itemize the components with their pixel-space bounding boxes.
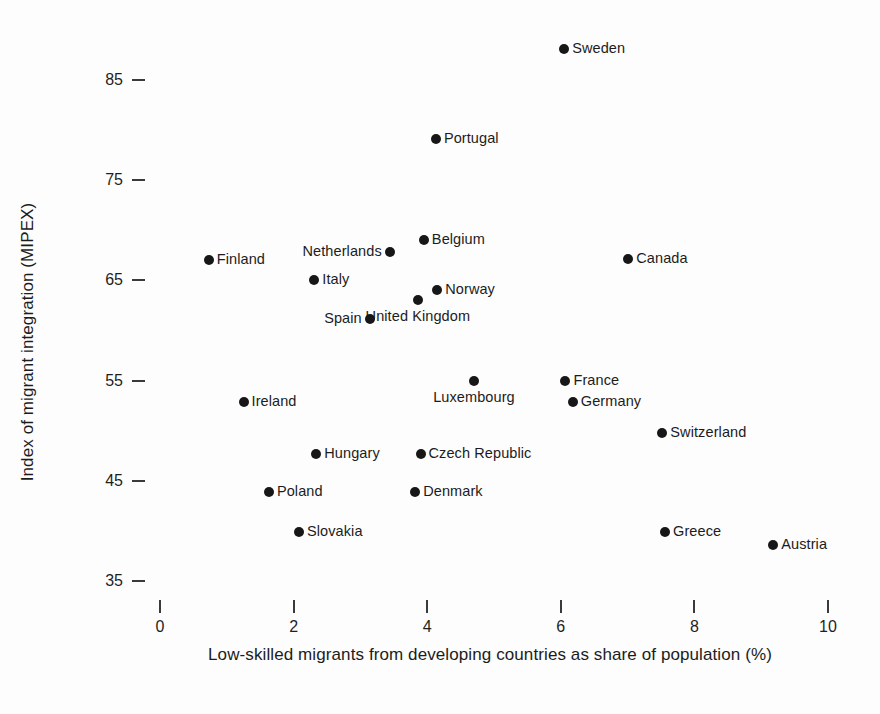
data-point-marker <box>309 275 319 285</box>
data-point-label: Ireland <box>252 393 297 409</box>
data-point-marker <box>413 295 423 305</box>
y-axis-tick-label: 85 <box>105 71 123 89</box>
x-axis-tick-label: 8 <box>690 618 699 635</box>
y-axis-tick-mark <box>132 179 145 181</box>
data-point-marker <box>559 44 569 54</box>
x-axis-tick-mark <box>827 600 829 613</box>
data-point-label: Sweden <box>572 40 625 56</box>
data-point-marker <box>204 255 214 265</box>
x-axis-tick-label: 10 <box>819 618 837 635</box>
data-point-label: France <box>573 372 619 388</box>
data-point-marker <box>432 285 442 295</box>
x-axis-tick-label: 4 <box>423 618 432 635</box>
data-point-label: Greece <box>673 523 721 539</box>
data-point-label: Germany <box>581 393 641 409</box>
data-point-label: Slovakia <box>307 523 363 539</box>
y-axis-tick-mark <box>132 79 145 81</box>
data-point-label: Austria <box>781 536 827 552</box>
x-axis-tick: 6 <box>531 600 591 636</box>
data-point-marker <box>239 397 249 407</box>
data-point-marker <box>410 487 420 497</box>
scatter-plot-figure: 857565554535 0246810 SwedenPortugalBelgi… <box>0 0 880 714</box>
data-point-label: Canada <box>636 250 687 266</box>
data-point-label: Spain <box>324 310 362 326</box>
y-axis-tick-label: 75 <box>105 171 123 189</box>
data-point-marker <box>294 527 304 537</box>
x-axis-title: Low-skilled migrants from developing cou… <box>120 645 860 665</box>
data-point-marker <box>311 449 321 459</box>
data-point-label: Switzerland <box>670 424 746 440</box>
data-point-label: Italy <box>322 271 349 287</box>
y-axis-tick-mark <box>132 480 145 482</box>
x-axis-tick: 8 <box>664 600 724 636</box>
data-point-marker <box>264 487 274 497</box>
data-point-marker <box>385 247 395 257</box>
data-point-marker <box>768 540 778 550</box>
data-point-label: Hungary <box>324 445 380 461</box>
x-axis-tick-label: 2 <box>289 618 298 635</box>
data-point-marker <box>660 527 670 537</box>
data-point-label: Finland <box>217 251 265 267</box>
x-axis-tick-mark <box>426 600 428 613</box>
x-axis-tick: 0 <box>130 600 190 636</box>
x-axis-tick: 10 <box>798 600 858 636</box>
y-axis-title: Index of migrant integration (MIPEX) <box>0 0 56 714</box>
y-axis-tick-mark <box>132 380 145 382</box>
y-axis-title-text: Index of migrant integration (MIPEX) <box>18 203 38 512</box>
data-point-marker <box>431 134 441 144</box>
x-axis-tick: 2 <box>264 600 324 636</box>
data-point-marker <box>416 449 426 459</box>
x-axis-tick-label: 0 <box>156 618 165 635</box>
data-point-label: Belgium <box>432 231 485 247</box>
data-point-label: Netherlands <box>302 243 381 259</box>
y-axis-tick-mark <box>132 580 145 582</box>
x-axis-tick-mark <box>693 600 695 613</box>
y-axis-tick-mark <box>132 279 145 281</box>
x-axis-tick: 4 <box>397 600 457 636</box>
y-axis-tick-label: 65 <box>105 271 123 289</box>
x-axis-tick-mark <box>293 600 295 613</box>
data-point-label: Poland <box>277 483 323 499</box>
data-point-marker <box>568 397 578 407</box>
y-axis-tick-label: 45 <box>105 472 123 490</box>
data-point-label: Norway <box>445 281 495 297</box>
data-point-label: Luxembourg <box>433 389 515 405</box>
data-point-label: Portugal <box>444 130 499 146</box>
y-axis-tick-label: 55 <box>105 372 123 390</box>
x-axis-tick-mark <box>159 600 161 613</box>
data-point-label: Czech Republic <box>429 445 532 461</box>
data-point-label: Denmark <box>423 483 483 499</box>
data-point-marker <box>469 376 479 386</box>
data-point-marker <box>657 428 667 438</box>
x-axis-tick-label: 6 <box>556 618 565 635</box>
data-point-marker <box>623 254 633 264</box>
data-point-label: United Kingdom <box>366 308 471 324</box>
x-axis-tick-mark <box>560 600 562 613</box>
data-point-marker <box>419 235 429 245</box>
y-axis-tick-label: 35 <box>105 572 123 590</box>
data-point-marker <box>560 376 570 386</box>
